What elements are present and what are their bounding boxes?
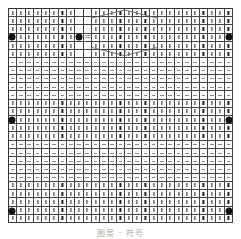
purl-stitch-cell — [17, 58, 25, 66]
knit-stitch-cell — [125, 198, 133, 206]
purl-stitch-cell — [208, 75, 216, 83]
knit-stitch-cell — [225, 9, 233, 17]
purl-stitch-cell — [92, 174, 100, 182]
purl-stitch-cell — [67, 141, 75, 149]
knit-stitch-cell — [175, 124, 183, 132]
purl-stitch-cell — [158, 149, 166, 157]
knit-stitch-cell — [42, 132, 50, 140]
knit-stitch-cell — [75, 132, 83, 140]
knit-stitch-cell — [150, 207, 158, 215]
purl-stitch-cell — [183, 75, 191, 83]
knit-stitch-cell — [59, 108, 67, 116]
purl-stitch-cell — [34, 149, 42, 157]
purl-stitch-cell — [125, 83, 133, 91]
purl-stitch-cell — [117, 141, 125, 149]
knit-stitch-cell — [192, 116, 200, 124]
purl-stitch-cell — [208, 58, 216, 66]
knit-stitch-cell — [175, 17, 183, 25]
purl-stitch-cell — [175, 75, 183, 83]
purl-stitch-cell — [133, 174, 141, 182]
purl-stitch-cell — [17, 157, 25, 165]
purl-stitch-cell — [9, 75, 17, 83]
knit-stitch-cell — [100, 132, 108, 140]
blank-cell — [84, 17, 92, 25]
knit-stitch-cell — [84, 215, 92, 223]
purl-stitch-cell — [133, 149, 141, 157]
purl-stitch-cell — [158, 91, 166, 99]
knit-stitch-cell — [9, 9, 17, 17]
purl-stitch-cell — [216, 75, 224, 83]
knit-stitch-cell — [26, 132, 34, 140]
purl-stitch-cell — [34, 91, 42, 99]
knit-stitch-cell — [225, 42, 233, 50]
purl-stitch-cell — [167, 83, 175, 91]
knit-stitch-cell — [59, 34, 67, 42]
knit-stitch-cell — [167, 108, 175, 116]
knit-stitch-cell — [100, 124, 108, 132]
knit-stitch-cell — [225, 50, 233, 58]
knit-stitch-cell — [26, 34, 34, 42]
purl-stitch-cell — [50, 149, 58, 157]
knit-stitch-cell — [67, 132, 75, 140]
purl-stitch-cell — [67, 91, 75, 99]
purl-stitch-cell — [84, 58, 92, 66]
knit-stitch-cell — [142, 132, 150, 140]
purl-stitch-cell — [26, 141, 34, 149]
purl-stitch-cell — [117, 149, 125, 157]
purl-stitch-cell — [17, 149, 25, 157]
purl-stitch-cell — [100, 174, 108, 182]
purl-stitch-cell — [42, 75, 50, 83]
knit-stitch-cell — [9, 108, 17, 116]
knit-stitch-cell — [158, 116, 166, 124]
knit-stitch-cell — [175, 190, 183, 198]
knit-stitch-cell — [192, 100, 200, 108]
knit-stitch-cell — [9, 182, 17, 190]
purl-stitch-cell — [183, 67, 191, 75]
purl-stitch-cell — [150, 91, 158, 99]
knit-stitch-cell — [125, 25, 133, 33]
purl-stitch-cell — [150, 149, 158, 157]
knit-stitch-cell — [100, 182, 108, 190]
purl-stitch-cell — [109, 174, 117, 182]
knit-stitch-cell — [142, 25, 150, 33]
purl-stitch-cell — [167, 157, 175, 165]
knit-stitch-cell — [175, 207, 183, 215]
purl-stitch-cell — [84, 91, 92, 99]
knit-stitch-cell — [200, 100, 208, 108]
knit-stitch-cell — [59, 190, 67, 198]
purl-stitch-cell — [175, 67, 183, 75]
purl-stitch-cell — [158, 165, 166, 173]
purl-stitch-cell — [67, 165, 75, 173]
purl-stitch-cell — [75, 157, 83, 165]
knit-stitch-cell — [59, 182, 67, 190]
knit-stitch-cell — [192, 108, 200, 116]
knit-stitch-cell — [183, 34, 191, 42]
knit-stitch-cell — [216, 124, 224, 132]
purl-stitch-cell — [50, 174, 58, 182]
purl-stitch-cell — [50, 157, 58, 165]
knit-stitch-cell — [216, 108, 224, 116]
knit-stitch-cell — [100, 207, 108, 215]
purl-stitch-cell — [225, 91, 233, 99]
knit-stitch-cell — [192, 34, 200, 42]
purl-stitch-cell — [216, 165, 224, 173]
knit-stitch-cell — [200, 25, 208, 33]
purl-stitch-cell — [200, 58, 208, 66]
purl-stitch-cell — [133, 91, 141, 99]
knit-stitch-cell — [200, 124, 208, 132]
purl-stitch-cell — [133, 58, 141, 66]
knit-stitch-cell — [42, 207, 50, 215]
knit-stitch-cell — [208, 17, 216, 25]
purl-stitch-cell — [208, 174, 216, 182]
knit-stitch-cell — [34, 42, 42, 50]
purl-stitch-cell — [109, 165, 117, 173]
purl-stitch-cell — [59, 75, 67, 83]
knit-stitch-cell — [175, 132, 183, 140]
knit-stitch-cell — [225, 108, 233, 116]
knit-stitch-cell — [167, 207, 175, 215]
knit-stitch-cell — [167, 50, 175, 58]
purl-stitch-cell — [59, 67, 67, 75]
purl-stitch-cell — [117, 157, 125, 165]
purl-stitch-cell — [150, 58, 158, 66]
knit-stitch-cell — [200, 190, 208, 198]
